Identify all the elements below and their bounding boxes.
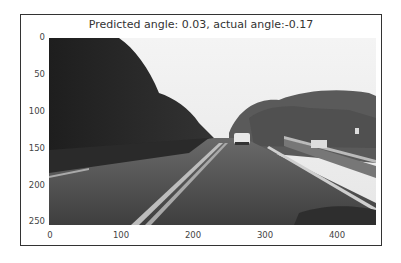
y-tick-0: 0 <box>25 32 45 42</box>
road-image <box>49 38 376 225</box>
x-tick-100: 100 <box>106 230 136 240</box>
chart-title: Predicted angle: 0.03, actual angle:-0.1… <box>21 18 381 31</box>
x-tick-300: 300 <box>250 230 280 240</box>
x-tick-200: 200 <box>178 230 208 240</box>
figure-frame: Predicted angle: 0.03, actual angle:-0.1… <box>20 14 382 246</box>
y-tick-50: 50 <box>25 69 45 79</box>
y-tick-150: 150 <box>25 143 45 153</box>
y-tick-100: 100 <box>25 106 45 116</box>
y-tick-200: 200 <box>25 180 45 190</box>
y-tick-250: 250 <box>25 216 45 226</box>
x-tick-400: 400 <box>322 230 352 240</box>
road-scene-graphic <box>49 38 376 225</box>
x-tick-0: 0 <box>35 230 65 240</box>
